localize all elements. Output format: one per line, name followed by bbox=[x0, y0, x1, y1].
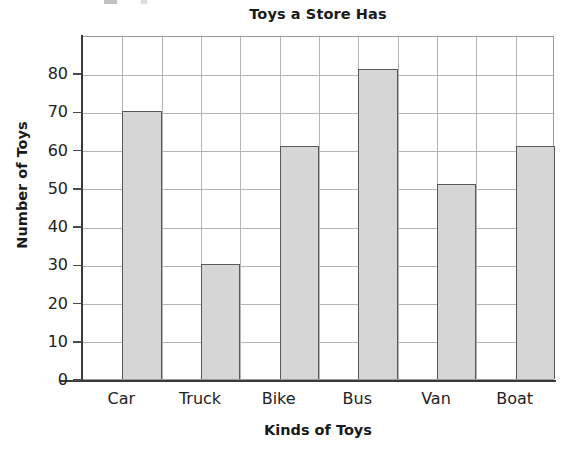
y-tick-mark bbox=[73, 379, 82, 381]
y-tick-label: 60 bbox=[32, 143, 68, 159]
y-tick-label: 80 bbox=[32, 66, 68, 82]
y-tick-label: 70 bbox=[32, 104, 68, 120]
bar-truck bbox=[201, 264, 240, 379]
gridline-vertical bbox=[240, 37, 241, 379]
x-axis-category-labels: CarTruckBikeBusVanBoat bbox=[82, 391, 554, 417]
bar-bus bbox=[358, 69, 397, 379]
gridline-vertical bbox=[319, 37, 320, 379]
x-category-label-bus: Bus bbox=[318, 391, 397, 407]
y-tick-mark bbox=[73, 73, 82, 75]
gridline-vertical bbox=[398, 37, 399, 379]
x-category-label-bike: Bike bbox=[239, 391, 318, 407]
x-category-label-boat: Boat bbox=[475, 391, 554, 407]
y-tick-label: 10 bbox=[32, 334, 68, 350]
y-tick-mark bbox=[73, 341, 82, 343]
bar-car bbox=[122, 111, 161, 379]
y-axis-tick-labels: 01020304050607080 bbox=[26, 0, 68, 460]
y-axis-title: Number of Toys bbox=[14, 105, 30, 265]
y-tick-label: 30 bbox=[32, 257, 68, 273]
y-tick-mark bbox=[73, 150, 82, 152]
bar-bike bbox=[280, 146, 319, 379]
y-axis-line bbox=[81, 35, 83, 382]
x-category-label-van: Van bbox=[397, 391, 476, 407]
plot-grid-and-bars bbox=[83, 37, 553, 379]
chart-title: Toys a Store Has bbox=[82, 6, 554, 22]
y-tick-mark bbox=[73, 303, 82, 305]
y-tick-label: 20 bbox=[32, 296, 68, 312]
y-tick-mark bbox=[73, 265, 82, 267]
cropped-text-artifact bbox=[104, 0, 164, 5]
bar-van bbox=[437, 184, 476, 379]
plot-area bbox=[82, 36, 554, 380]
bar-boat bbox=[516, 146, 555, 379]
y-tick-mark bbox=[73, 188, 82, 190]
y-tick-label: 50 bbox=[32, 181, 68, 197]
y-tick-mark bbox=[73, 112, 82, 114]
y-tick-mark bbox=[73, 226, 82, 228]
x-category-label-truck: Truck bbox=[161, 391, 240, 407]
bar-chart-figure: Toys a Store Has 01020304050607080 Numbe… bbox=[0, 0, 572, 460]
gridline-horizontal bbox=[83, 75, 553, 76]
gridline-vertical bbox=[162, 37, 163, 379]
gridline-vertical bbox=[476, 37, 477, 379]
x-category-label-car: Car bbox=[82, 391, 161, 407]
y-tick-label: 40 bbox=[32, 219, 68, 235]
x-axis-title: Kinds of Toys bbox=[82, 422, 554, 438]
y-tick-label: 0 bbox=[32, 372, 68, 388]
x-axis-line bbox=[60, 380, 556, 382]
